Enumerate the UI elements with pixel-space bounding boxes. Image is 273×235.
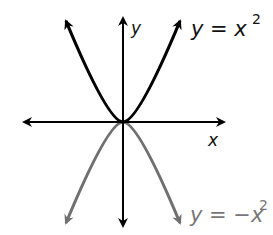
- lower-parabola-label: y = −x 2: [189, 197, 268, 227]
- coordinate-graph: y x y = x 2 y = −x 2: [0, 0, 273, 235]
- lower-exponent: 2: [259, 197, 268, 213]
- upper-parabola-label: y = x 2: [190, 11, 261, 41]
- x-axis-label: x: [207, 130, 219, 150]
- upper-exponent: 2: [252, 11, 261, 27]
- upper-equation: y = x: [190, 17, 247, 41]
- lower-equation: y = −x: [189, 203, 264, 227]
- y-axis-label: y: [130, 18, 142, 38]
